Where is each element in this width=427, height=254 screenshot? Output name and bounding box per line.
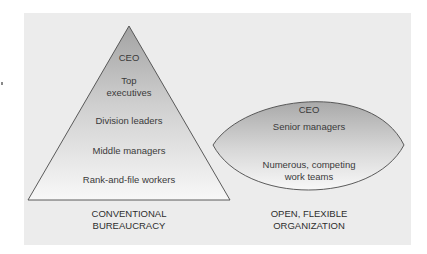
diagram-shapes <box>0 0 427 254</box>
caption-open-flexible-organization: OPEN, FLEXIBLE ORGANIZATION <box>271 208 348 232</box>
lens-level-senior-managers: Senior managers <box>273 121 345 133</box>
pyramid-level-top-executives: Top executives <box>107 75 152 98</box>
caption-conventional-bureaucracy: CONVENTIONAL BUREAUCRACY <box>92 208 167 232</box>
pyramid-level-division-leaders: Division leaders <box>95 115 162 127</box>
lens-level-work-teams: Numerous, competing work teams <box>263 159 356 182</box>
pyramid-level-ceo: CEO <box>119 52 140 64</box>
pyramid-level-middle-managers: Middle managers <box>93 145 166 157</box>
pyramid-level-rank-and-file: Rank-and-file workers <box>83 174 175 186</box>
lens-level-ceo: CEO <box>299 104 320 116</box>
